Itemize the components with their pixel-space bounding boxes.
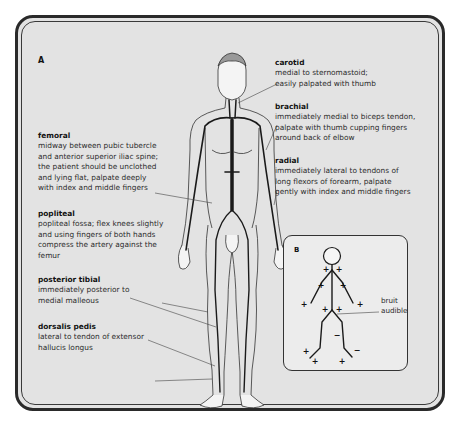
svg-text:+: + [339,357,346,366]
svg-text:+: + [312,357,319,366]
brachial-desc: immediately medial to biceps tendon, pal… [275,112,415,143]
svg-text:+: + [340,281,347,290]
femoral-title: femoral [38,131,158,141]
label-posterior-tibial: posterior tibial immediately posterior t… [38,275,129,306]
carotid-desc: medial to sternomastoid; easily palpated… [275,68,376,89]
popliteal-title: popliteal [38,209,163,219]
radial-title: radial [275,156,411,166]
popliteal-desc: popliteal fossa; flex knees slightly and… [38,219,163,261]
bruit-audible-annotation: bruit audible [381,296,408,316]
panel-b-stick-figure: B + + + + + + + + − + + + − bruit audibl… [283,235,408,371]
svg-text:+: + [336,305,343,314]
dorsalis-pedis-desc: lateral to tendon of extensor hallucis l… [38,332,144,353]
posterior-tibial-desc: immediately posterior to medial malleous [38,285,129,306]
label-brachial: brachial immediately medial to biceps te… [275,102,415,144]
svg-text:−: − [334,331,341,340]
brachial-title: brachial [275,102,415,112]
svg-text:+: + [322,305,329,314]
svg-text:+: + [303,347,310,356]
svg-text:+: + [323,265,330,274]
label-popliteal: popliteal popliteal fossa; flex knees sl… [38,209,163,261]
label-dorsalis-pedis: dorsalis pedis lateral to tendon of exte… [38,322,144,353]
posterior-tibial-title: posterior tibial [38,275,129,285]
label-radial: radial immediately lateral to tendons of… [275,156,411,198]
carotid-title: carotid [275,58,376,68]
radial-desc: immediately lateral to tendons of long f… [275,166,411,197]
label-femoral: femoral midway between pubic tubercle an… [38,131,158,193]
svg-text:+: + [336,265,343,274]
svg-text:−: − [354,346,361,355]
dorsalis-pedis-title: dorsalis pedis [38,322,144,332]
label-carotid: carotid medial to sternomastoid; easily … [275,58,376,89]
svg-text:+: + [318,281,325,290]
svg-text:+: + [357,300,364,309]
svg-text:+: + [301,300,308,309]
femoral-desc: midway between pubic tubercle and anteri… [38,141,158,193]
